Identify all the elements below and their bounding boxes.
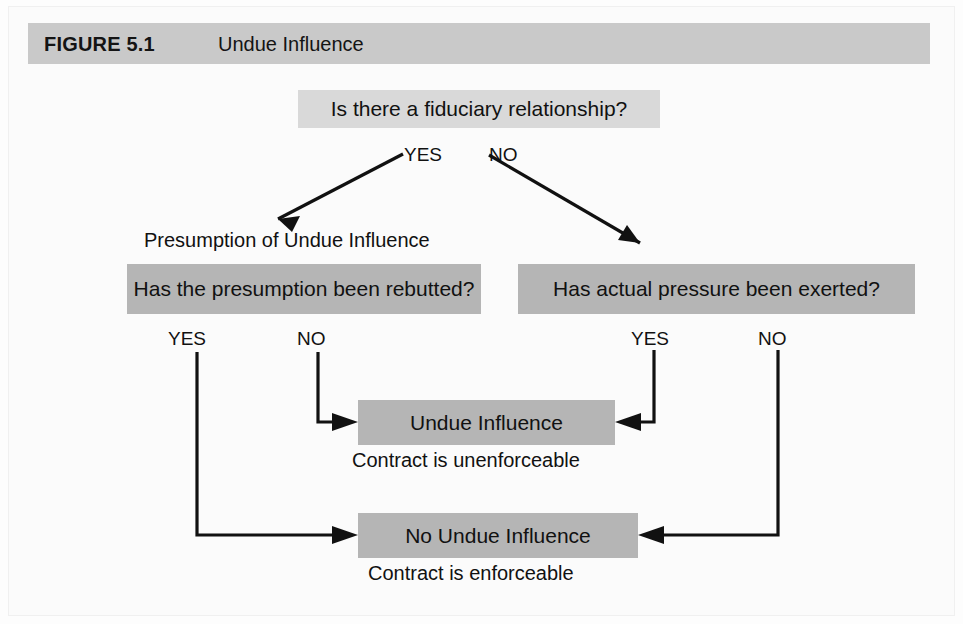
caption-contract-is-enforceable: Contract is enforceable [368, 562, 574, 585]
figure-number-label: FIGURE 5.1 [44, 32, 155, 55]
figure-container: FIGURE 5.1 Undue Influence [0, 0, 963, 624]
edge-label-left-yes: YES [168, 328, 206, 350]
edge-label-root-yes: YES [404, 144, 442, 166]
node-undue-influence-label: Undue Influence [410, 411, 563, 435]
edge-label-right-yes: YES [631, 328, 669, 350]
node-left-question-label: Has the presumption been rebutted? [134, 277, 475, 301]
caption-presumption-of-undue-influence: Presumption of Undue Influence [144, 229, 430, 252]
node-right-question[interactable]: Has actual pressure been exerted? [518, 264, 915, 314]
node-right-question-label: Has actual pressure been exerted? [553, 277, 880, 301]
edge-label-root-no: NO [489, 144, 518, 166]
node-undue-influence[interactable]: Undue Influence [358, 400, 615, 445]
edge-label-left-no: NO [297, 328, 326, 350]
node-no-undue-influence-label: No Undue Influence [405, 524, 591, 548]
figure-title: Undue Influence [218, 32, 364, 55]
node-root-question-label: Is there a fiduciary relationship? [331, 97, 628, 121]
caption-contract-is-unenforceable: Contract is unenforceable [352, 449, 580, 472]
figure-header-band: FIGURE 5.1 Undue Influence [28, 23, 930, 64]
edge-label-right-no: NO [758, 328, 787, 350]
node-no-undue-influence[interactable]: No Undue Influence [358, 513, 638, 558]
node-left-question[interactable]: Has the presumption been rebutted? [127, 264, 481, 314]
node-root-question[interactable]: Is there a fiduciary relationship? [298, 90, 660, 128]
